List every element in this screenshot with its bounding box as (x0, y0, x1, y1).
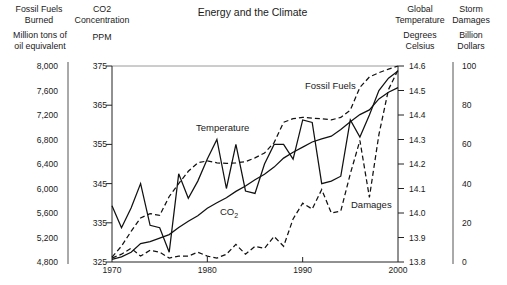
year-tick-label: 1970 (95, 266, 129, 275)
damages-tick-label: 80 (462, 101, 492, 110)
damages-tick-label: 20 (462, 219, 492, 228)
damages-tick-label: 40 (462, 180, 492, 189)
fossil-tick-label: 6,800 (12, 136, 58, 145)
temperature-tick-label: 14.2 (409, 160, 439, 169)
year-tick-label: 1980 (190, 266, 224, 275)
fossil-tick-label: 8,000 (12, 62, 58, 71)
fossil-tick-label: 5,600 (12, 209, 58, 218)
fossil-tick-label: 7,600 (12, 87, 58, 96)
temperature-tick-label: 14.6 (409, 62, 439, 71)
co2-tick-label: 375 (77, 62, 107, 71)
co2-tick-label: 345 (77, 180, 107, 189)
fossil-fuels-series-label: Fossil Fuels (305, 81, 356, 91)
fossil-tick-label: 6,000 (12, 185, 58, 194)
fossil-tick-label: 5,200 (12, 234, 58, 243)
year-tick-label: 2000 (381, 266, 415, 275)
damages-tick-label: 0 (462, 258, 492, 267)
co2-tick-label: 335 (77, 219, 107, 228)
energy-climate-chart: Fossil Fuels Burned Million tons of oil … (0, 0, 507, 285)
temperature-series-label: Temperature (196, 123, 249, 133)
temperature-tick-label: 14.0 (409, 209, 439, 218)
damages-tick-label: 60 (462, 140, 492, 149)
co2-tick-label: 355 (77, 140, 107, 149)
temperature-tick-label: 13.9 (409, 234, 439, 243)
co2-label-subscript: 2 (234, 212, 238, 219)
year-tick-label: 1990 (286, 266, 320, 275)
fossil-tick-label: 6,400 (12, 160, 58, 169)
temperature-tick-label: 14.3 (409, 136, 439, 145)
damages-tick-label: 100 (462, 62, 492, 71)
co2-series-label: CO2 (220, 207, 238, 219)
fossil-fuels-line (112, 66, 398, 257)
fossil-tick-label: 7,200 (12, 111, 58, 120)
co2-tick-label: 365 (77, 101, 107, 110)
temperature-tick-label: 14.5 (409, 87, 439, 96)
damages-series-label: Damages (351, 200, 392, 210)
co2-label-main: CO (220, 206, 234, 217)
temperature-tick-label: 14.4 (409, 111, 439, 120)
co2-line (112, 88, 398, 260)
temperature-tick-label: 14.1 (409, 185, 439, 194)
fossil-tick-label: 4,800 (12, 258, 58, 267)
